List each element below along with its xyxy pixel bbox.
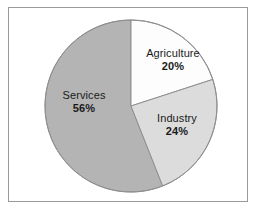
pie-label-services-percent: 56% bbox=[46, 102, 122, 115]
pie-chart-graphic bbox=[0, 0, 258, 211]
pie-label-services-name: Services bbox=[46, 89, 122, 102]
pie-label-industry: Industry 24% bbox=[140, 112, 214, 138]
pie-label-services: Services 56% bbox=[46, 89, 122, 115]
pie-label-industry-name: Industry bbox=[140, 112, 214, 125]
pie-label-agriculture: Agriculture 20% bbox=[131, 47, 215, 73]
pie-label-agriculture-name: Agriculture bbox=[131, 47, 215, 60]
pie-chart-figure: Agriculture 20% Industry 24% Services 56… bbox=[0, 0, 258, 211]
pie-label-agriculture-percent: 20% bbox=[131, 60, 215, 73]
pie-label-industry-percent: 24% bbox=[140, 125, 214, 138]
